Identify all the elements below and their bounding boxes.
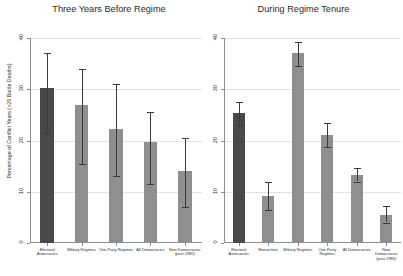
error-bar-cap-upper xyxy=(113,84,120,85)
error-bar xyxy=(150,112,151,184)
gridline xyxy=(225,192,401,193)
y-axis-tick-label: 30 xyxy=(18,83,24,94)
error-bar xyxy=(298,42,299,67)
error-bar-cap-lower xyxy=(79,164,86,165)
y-axis-title: Percentage of Conflict Years (>25 Battle… xyxy=(6,16,12,226)
y-axis-tick-label: 40 xyxy=(212,32,218,43)
error-bar-cap-lower xyxy=(383,223,390,224)
x-axis-category-label: Electoral Autocracies xyxy=(30,248,64,257)
bar xyxy=(233,113,245,243)
x-axis-tick xyxy=(82,243,83,246)
error-bar-cap-upper xyxy=(147,112,154,113)
x-axis-category-label: One-Party Regimes xyxy=(313,248,343,257)
error-bar xyxy=(357,168,358,182)
y-axis-tick-label: 20 xyxy=(18,134,24,145)
error-bar-cap-upper xyxy=(265,182,272,183)
x-axis-tick xyxy=(357,243,358,246)
x-axis-category-label: All Democracies xyxy=(342,248,372,252)
x-axis-category-label: Electoral Autocracies xyxy=(224,248,254,257)
x-axis-category-label: New Democracies (post-1990) xyxy=(168,248,202,257)
x-axis-tick xyxy=(268,243,269,246)
x-axis-tick xyxy=(239,243,240,246)
error-bar-cap-lower xyxy=(182,207,189,208)
error-bar xyxy=(82,69,83,164)
gridline xyxy=(225,89,401,90)
y-axis-tick xyxy=(221,243,224,244)
panel-title: During Regime Tenure xyxy=(204,4,403,14)
y-axis-tick-label: 20 xyxy=(212,134,218,145)
y-axis-tick xyxy=(27,38,30,39)
y-axis-tick-label: 0 xyxy=(212,237,218,248)
error-bar-cap-lower xyxy=(265,210,272,211)
error-bar-cap-upper xyxy=(44,53,51,54)
bar xyxy=(351,175,363,243)
x-axis-tick xyxy=(327,243,328,246)
error-bar-cap-upper xyxy=(295,42,302,43)
y-axis-tick xyxy=(27,141,30,142)
x-axis-category-label: Monarchies xyxy=(254,248,284,252)
x-axis-tick xyxy=(386,243,387,246)
plot-area: 010203040Electoral AutocraciesMonarchies… xyxy=(224,38,401,243)
y-axis-tick xyxy=(27,192,30,193)
error-bar-cap-lower xyxy=(236,125,243,126)
error-bar-cap-upper xyxy=(354,168,361,169)
bar xyxy=(321,135,333,243)
gridline xyxy=(31,38,202,39)
error-bar-cap-lower xyxy=(147,184,154,185)
error-bar-cap-upper xyxy=(182,138,189,139)
y-axis-tick xyxy=(221,38,224,39)
error-bar-cap-lower xyxy=(113,176,120,177)
error-bar-cap-lower xyxy=(324,147,331,148)
x-axis-category-label: Military Regimes xyxy=(283,248,313,252)
error-bar xyxy=(185,138,186,207)
gridline xyxy=(225,38,401,39)
y-axis-tick xyxy=(221,141,224,142)
x-axis-category-label: New Democracies (post-1990) xyxy=(372,248,402,261)
panel-three-years-before-regime: Three Years Before Regime 010203040Elect… xyxy=(14,0,204,276)
x-axis-tick xyxy=(116,243,117,246)
error-bar xyxy=(327,123,328,147)
error-bar-cap-upper xyxy=(383,206,390,207)
x-axis-category-label: All Democracies xyxy=(133,248,167,252)
x-axis-line xyxy=(224,242,401,243)
error-bar-cap-lower xyxy=(354,182,361,183)
x-axis-tick xyxy=(150,243,151,246)
error-bar-cap-upper xyxy=(324,123,331,124)
x-axis-tick xyxy=(298,243,299,246)
y-axis-tick xyxy=(221,89,224,90)
plot-area: 010203040Electoral AutocraciesMilitary R… xyxy=(30,38,202,243)
panel-title: Three Years Before Regime xyxy=(14,4,204,14)
x-axis-category-label: Military Regimes xyxy=(64,248,98,252)
x-axis-tick xyxy=(185,243,186,246)
y-axis-tick-label: 10 xyxy=(212,185,218,196)
error-bar-cap-upper xyxy=(236,102,243,103)
x-axis-tick xyxy=(47,243,48,246)
y-axis-tick xyxy=(27,243,30,244)
x-axis-category-label: One-Party Regimes xyxy=(99,248,133,252)
error-bar xyxy=(239,102,240,126)
y-axis-tick-label: 0 xyxy=(18,237,24,248)
y-axis-title-container: Percentage of Conflict Years (>25 Battle… xyxy=(0,0,14,276)
gridline xyxy=(225,141,401,142)
error-bar xyxy=(47,53,48,132)
error-bar-cap-lower xyxy=(295,66,302,67)
panel-during-regime-tenure: During Regime Tenure 010203040Electoral … xyxy=(204,0,403,276)
error-bar-cap-lower xyxy=(44,133,51,134)
error-bar-cap-upper xyxy=(79,69,86,70)
bar xyxy=(292,53,304,243)
error-bar xyxy=(268,182,269,210)
y-axis-tick xyxy=(27,89,30,90)
figure-canvas: Percentage of Conflict Years (>25 Battle… xyxy=(0,0,403,276)
error-bar xyxy=(386,206,387,223)
y-axis-tick-label: 10 xyxy=(18,185,24,196)
error-bar xyxy=(116,84,117,176)
y-axis-tick xyxy=(221,192,224,193)
y-axis-tick-label: 30 xyxy=(212,83,218,94)
y-axis-tick-label: 40 xyxy=(18,32,24,43)
